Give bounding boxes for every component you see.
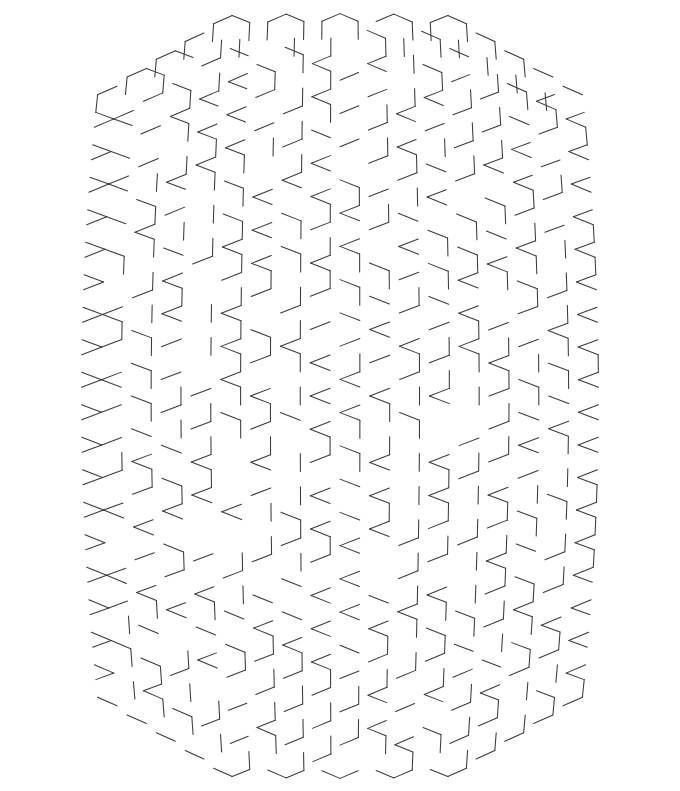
maze-wall xyxy=(505,568,506,586)
maze-wall xyxy=(244,155,245,173)
maze-wall xyxy=(413,55,414,73)
maze-wall xyxy=(214,602,215,620)
maze-wall xyxy=(213,205,214,223)
maze-wall xyxy=(566,273,567,291)
maze-wall xyxy=(476,222,477,240)
maze-wall xyxy=(505,206,506,224)
maze-wall xyxy=(476,552,477,570)
maze-wall xyxy=(184,222,185,240)
maze-canvas xyxy=(0,0,680,791)
maze-wall xyxy=(153,272,154,290)
maze-wall xyxy=(506,535,507,553)
maze-wall xyxy=(275,702,276,720)
maze-wall xyxy=(404,39,405,57)
maze-wall xyxy=(536,518,537,536)
maze-wall xyxy=(445,139,446,157)
maze-wall xyxy=(184,552,185,570)
maze-wall xyxy=(245,652,246,670)
maze-wall xyxy=(446,602,447,620)
maze-wall xyxy=(596,485,597,503)
maze-wall xyxy=(416,652,417,670)
maze-wall xyxy=(415,88,416,106)
maze-wall xyxy=(154,239,155,257)
maze-wall xyxy=(214,172,215,190)
maze-wall xyxy=(124,256,125,274)
maze-wall xyxy=(276,736,277,754)
maze-wall xyxy=(475,585,476,603)
maze-wall xyxy=(566,501,567,519)
maze-wall xyxy=(443,669,444,687)
maze-wall xyxy=(267,22,268,40)
maze-wall xyxy=(445,635,446,653)
maze-wall xyxy=(536,256,537,274)
maze-background xyxy=(0,0,680,791)
maze-wall xyxy=(412,22,413,40)
maze-wall xyxy=(412,752,413,770)
maze-stage xyxy=(0,0,680,791)
maze-wall xyxy=(275,72,276,90)
